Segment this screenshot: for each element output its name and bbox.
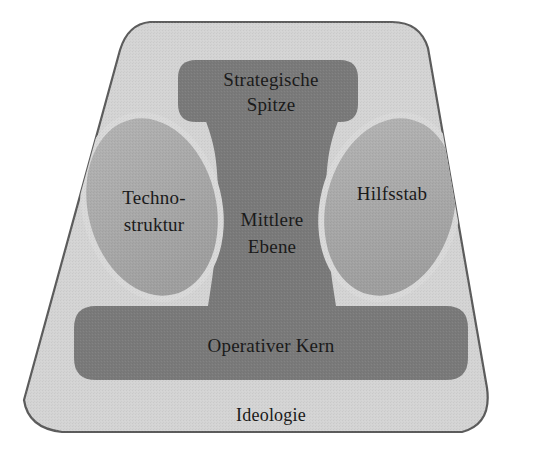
- operating-core-label: Operativer Kern: [208, 335, 335, 356]
- technostructure-label-line1: Techno-: [122, 187, 185, 208]
- strategic-apex-label-line2: Spitze: [247, 94, 296, 115]
- diagram-canvas: Strategische Spitze Techno- struktur Mit…: [0, 0, 546, 458]
- technostructure-label-line2: struktur: [124, 214, 185, 235]
- operating-core-label-line1: Operativer Kern: [208, 335, 335, 356]
- support-staff-label-line1: Hilfsstab: [357, 183, 427, 204]
- mintzberg-diagram: Strategische Spitze Techno- struktur Mit…: [0, 0, 546, 458]
- middle-line-label-line2: Ebene: [248, 236, 296, 257]
- middle-line-label-line1: Mittlere: [241, 209, 304, 230]
- support-staff-label: Hilfsstab: [357, 183, 427, 204]
- ideology-label: Ideologie: [236, 405, 306, 425]
- ideology-label-line1: Ideologie: [236, 405, 306, 425]
- strategic-apex-label-line1: Strategische: [223, 69, 318, 90]
